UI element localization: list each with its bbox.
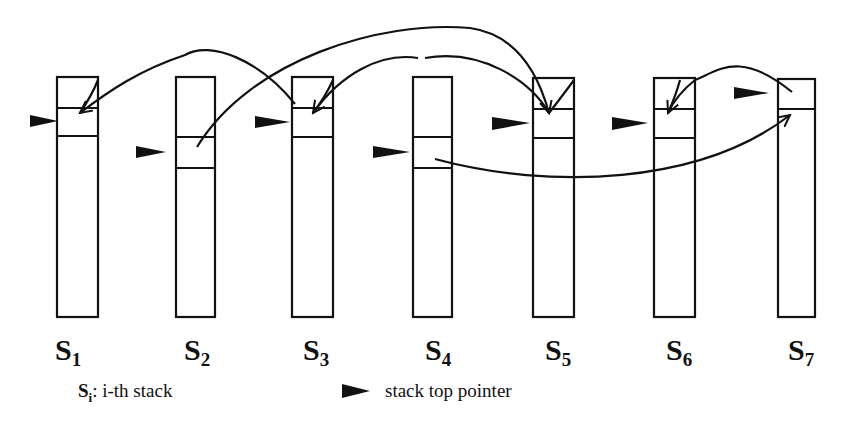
stack-4	[413, 77, 452, 317]
stack-label-6: S6	[666, 335, 692, 369]
stack-5	[533, 78, 574, 317]
legend-pointer-icon	[342, 384, 370, 398]
pointer-icon	[30, 115, 58, 127]
pointer-icon	[373, 146, 410, 158]
stack-label-2: S2	[184, 335, 210, 369]
stack-6	[654, 78, 695, 317]
stack-1	[57, 77, 98, 317]
legend-pointer: stack top pointer	[385, 380, 512, 402]
pointer-icon	[612, 117, 648, 130]
stack-label-3: S3	[303, 335, 329, 369]
stack-label-7: S7	[788, 335, 814, 369]
stack-top-pointers	[30, 87, 769, 398]
stack-3	[292, 77, 333, 317]
pointer-icon	[734, 87, 769, 99]
multi-stack-diagram	[0, 0, 844, 432]
stack-label-5: S5	[545, 335, 571, 369]
stack-label-1: S1	[55, 335, 81, 369]
stack-2	[176, 77, 215, 317]
stack-label-4: S4	[425, 335, 451, 369]
pointer-icon	[136, 146, 166, 158]
pointer-icon	[492, 117, 530, 130]
pointer-icon	[255, 116, 290, 128]
link-arrows	[80, 27, 792, 177]
stack-7	[778, 79, 815, 317]
legend-stack: Si: i-th stack	[78, 380, 172, 406]
